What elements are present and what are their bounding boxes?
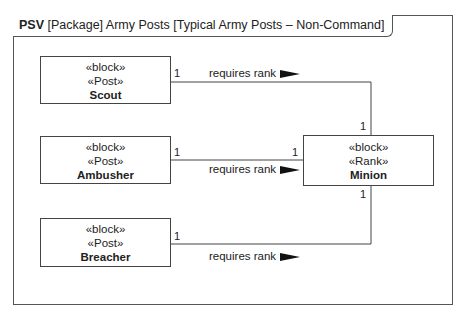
multiplicity-breacher: 1 xyxy=(174,230,180,242)
multiplicity-minion-left: 1 xyxy=(292,146,298,158)
direction-arrow-icon xyxy=(280,166,300,174)
block-ambusher[interactable]: «block» «Post» Ambusher xyxy=(40,136,171,184)
block-scout[interactable]: «block» «Post» Scout xyxy=(40,56,171,104)
block-name: Minion xyxy=(304,168,433,182)
block-minion[interactable]: «block» «Rank» Minion xyxy=(303,135,434,186)
association-label-scout: requires rank xyxy=(209,67,300,79)
stereotype-post: «Post» xyxy=(41,154,170,168)
multiplicity-scout: 1 xyxy=(174,67,180,79)
stereotype-block: «block» xyxy=(41,140,170,154)
block-name: Scout xyxy=(41,88,170,102)
association-label-ambusher: requires rank xyxy=(209,163,300,175)
stereotype-post: «Post» xyxy=(41,236,170,250)
stereotype-rank: «Rank» xyxy=(304,154,433,168)
block-breacher[interactable]: «block» «Post» Breacher xyxy=(40,218,171,267)
multiplicity-minion-top: 1 xyxy=(360,120,366,132)
label-text: requires rank xyxy=(209,67,276,79)
stereotype-block: «block» xyxy=(304,140,433,154)
multiplicity-ambusher: 1 xyxy=(174,146,180,158)
association-label-breacher: requires rank xyxy=(209,250,300,262)
label-text: requires rank xyxy=(209,163,276,175)
stereotype-block: «block» xyxy=(41,222,170,236)
block-name: Ambusher xyxy=(41,168,170,182)
block-name: Breacher xyxy=(41,250,170,264)
stereotype-post: «Post» xyxy=(41,74,170,88)
direction-arrow-icon xyxy=(280,253,300,261)
multiplicity-minion-bottom: 1 xyxy=(360,188,366,200)
stereotype-block: «block» xyxy=(41,60,170,74)
label-text: requires rank xyxy=(209,250,276,262)
direction-arrow-icon xyxy=(280,70,300,78)
